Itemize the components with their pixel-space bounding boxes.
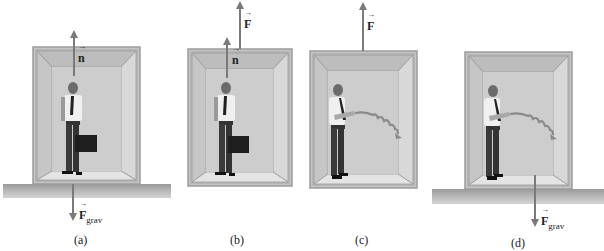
elevator-d-illustration <box>0 0 604 251</box>
panel-d: Fgrav (d) <box>0 0 604 251</box>
caption-d: (d) <box>511 236 525 251</box>
ground-floor <box>432 189 604 204</box>
gravity-force-label-d: Fgrav <box>541 214 564 229</box>
